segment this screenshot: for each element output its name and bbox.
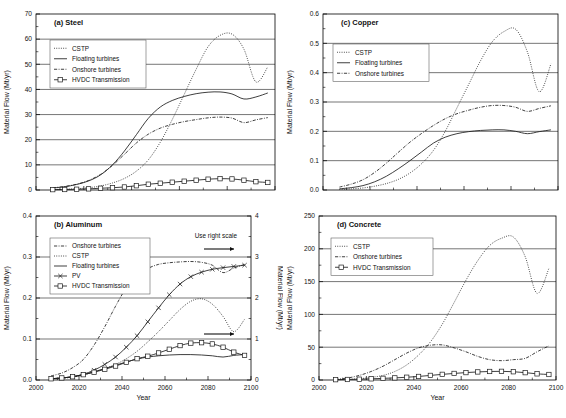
x-tick-label: 2100 <box>244 384 259 391</box>
data-marker <box>156 351 160 355</box>
data-marker <box>440 372 444 376</box>
y-right-tick-label: 1 <box>255 335 259 342</box>
data-marker <box>535 372 539 376</box>
y-tick-label: 0.3 <box>310 98 319 105</box>
x-tick-label: 2040 <box>406 384 421 391</box>
data-marker <box>476 370 480 374</box>
legend-label: Onshore turbines <box>353 253 402 260</box>
data-marker <box>242 178 246 182</box>
plot-panel-d: 050100150200250200020202040206020802100M… <box>283 206 566 418</box>
data-marker <box>182 179 186 183</box>
legend-label: CSTP <box>72 252 89 259</box>
y-tick-label: 0.2 <box>23 294 32 301</box>
y-tick-label: 0 <box>28 186 32 193</box>
data-marker <box>232 350 236 354</box>
panel-title: (c) Copper <box>341 18 379 27</box>
data-marker <box>167 347 171 351</box>
legend-label: CSTP <box>355 49 372 56</box>
data-marker <box>230 177 234 181</box>
x-tick-label: 2080 <box>501 384 516 391</box>
data-marker <box>523 370 527 374</box>
y-tick-label: 0.0 <box>310 186 319 193</box>
y-tick-label: 0.6 <box>310 10 319 17</box>
y-tick-label: 70 <box>25 10 33 17</box>
y-tick-label: 0.3 <box>23 253 32 260</box>
legend-label: HVDC Transmission <box>72 282 130 289</box>
y-axis-label: Material Flow (Mt/yr) <box>3 70 11 134</box>
legend-label: CSTP <box>72 45 89 52</box>
y-tick-label: 0.4 <box>23 212 32 219</box>
data-marker <box>103 367 107 371</box>
legend-label: PV <box>72 272 81 279</box>
y-tick-label: 50 <box>25 61 33 68</box>
data-marker <box>206 177 210 181</box>
legend-label: Onshore turbines <box>72 242 121 249</box>
y-tick-label: 0.1 <box>310 157 319 164</box>
x-tick-label: 2080 <box>201 384 216 391</box>
y-tick-label: 30 <box>25 111 33 118</box>
data-marker <box>242 353 246 357</box>
panel-title: (a) Steel <box>54 18 83 27</box>
chart-panel-concrete: 050100150200250200020202040206020802100M… <box>283 206 566 418</box>
y-tick-label: 100 <box>304 311 315 318</box>
chart-panel-aluminum: 0.00.10.20.30.401234Material Flow (Mt/yr… <box>0 206 283 418</box>
series-line <box>339 130 551 189</box>
data-marker <box>124 360 128 364</box>
data-marker <box>357 377 361 381</box>
data-marker <box>218 176 222 180</box>
legend-label: HVDC Transmission <box>72 76 130 83</box>
y-tick-label: 0.0 <box>23 376 32 383</box>
series-hvdc-transmission <box>49 340 247 380</box>
series-floating-turbines <box>339 130 551 189</box>
data-marker <box>487 369 491 373</box>
x-axis-label: Year <box>430 394 445 401</box>
data-marker <box>74 187 78 191</box>
data-marker <box>81 372 85 376</box>
y-tick-label: 150 <box>304 278 315 285</box>
data-marker <box>464 370 468 374</box>
data-marker <box>499 369 503 373</box>
x-tick-label: 2020 <box>72 384 87 391</box>
data-marker <box>393 376 397 380</box>
data-marker <box>146 354 150 358</box>
data-marker <box>452 371 456 375</box>
data-marker <box>333 377 337 381</box>
data-marker <box>221 345 225 349</box>
data-marker <box>110 186 114 190</box>
data-marker <box>51 187 55 191</box>
data-marker <box>189 341 193 345</box>
plot-panel-b: 0.00.10.20.30.401234Material Flow (Mt/yr… <box>0 206 283 418</box>
data-marker <box>170 180 174 184</box>
right-scale-arrow <box>204 247 234 251</box>
x-axis-label: Year <box>136 394 151 401</box>
y-tick-label: 0.2 <box>310 128 319 135</box>
x-tick-label: 2100 <box>549 384 564 391</box>
y-tick-label: 50 <box>308 344 316 351</box>
y-tick-label: 0.5 <box>310 40 319 47</box>
series-onshore-turbines <box>53 117 268 188</box>
plot-panel-c: 0.00.10.20.30.40.50.6Material Flow (Mt/y… <box>283 4 566 204</box>
y-tick-label: 0.4 <box>310 69 319 76</box>
y-tick-label: 250 <box>304 212 315 219</box>
y-tick-label: 0.1 <box>23 335 32 342</box>
y-axis-label: Material Flow (Mt/yr) <box>3 266 11 330</box>
data-marker <box>60 376 64 380</box>
x-tick-label: 2020 <box>359 384 374 391</box>
y-tick-label: 40 <box>25 86 33 93</box>
series-line <box>53 117 268 188</box>
data-marker <box>266 180 270 184</box>
x-tick-label: 2040 <box>115 384 130 391</box>
series-line <box>51 343 245 379</box>
data-marker <box>345 377 349 381</box>
panel-title: (b) Aluminum <box>54 220 102 229</box>
data-marker <box>49 377 53 381</box>
data-marker <box>178 343 182 347</box>
data-marker <box>146 182 150 186</box>
data-marker <box>381 376 385 380</box>
legend-label: HVDC Transmission <box>353 264 411 271</box>
use-right-scale-annotation: Use right scale <box>195 232 238 240</box>
chart-panel-steel: 010203040506070Material Flow (Mt/yr)(a) … <box>0 4 283 204</box>
y-right-tick-label: 2 <box>255 294 259 301</box>
x-tick-label: 2060 <box>454 384 469 391</box>
legend-label: Floating turbines <box>355 59 402 67</box>
